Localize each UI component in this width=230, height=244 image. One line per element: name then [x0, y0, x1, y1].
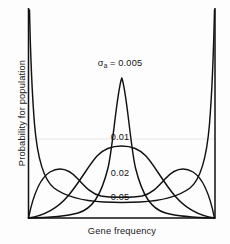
axis-frame [29, 8, 216, 218]
curve-sigma-0-01 [29, 146, 215, 218]
curve-annotation-0-05: 0.05 [90, 192, 150, 202]
curve-annotation-0-01: 0.01 [90, 132, 150, 142]
figure-container: Probability for population Gene frequenc… [0, 0, 230, 244]
curve-annotation-0-005: σa = 0.005 [78, 58, 162, 69]
sigma-value: = 0.005 [107, 58, 142, 68]
curve-annotation-0-02: 0.02 [90, 168, 150, 178]
plot-area [0, 0, 230, 244]
